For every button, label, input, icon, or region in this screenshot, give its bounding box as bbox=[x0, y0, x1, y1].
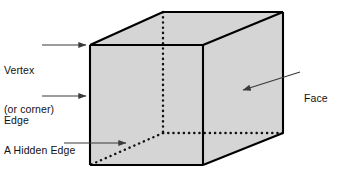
cube-front-face bbox=[90, 45, 203, 165]
hidden-edge-label: A Hidden Edge (drawn as a dotted line) bbox=[4, 118, 75, 179]
vertex-label-line1: Vertex bbox=[4, 64, 54, 77]
face-label: Face bbox=[304, 66, 328, 131]
cube-diagram: Vertex (or corner) Edge A Hidden Edge (d… bbox=[0, 0, 338, 179]
face-label-line1: Face bbox=[304, 92, 328, 105]
hidden-edge-label-line1: A Hidden Edge bbox=[4, 144, 75, 157]
cube-faces bbox=[90, 12, 283, 165]
